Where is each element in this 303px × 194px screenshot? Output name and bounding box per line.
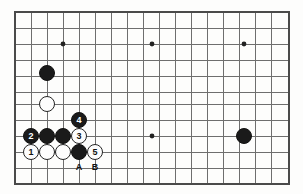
- black-stone-row-mid-2: [55, 128, 71, 144]
- black-stone-move-2: 2: [23, 128, 39, 144]
- white-stone-left: [39, 96, 55, 112]
- white-stone-move-3: 3: [71, 128, 87, 144]
- black-stone-upper-left: [39, 65, 55, 81]
- white-stone-bottom-2: [55, 144, 71, 160]
- point-label-a: A: [71, 163, 87, 172]
- stone-move-number: 4: [76, 115, 81, 124]
- stone-move-number: 1: [28, 147, 33, 156]
- white-stone-move-1: 1: [23, 144, 39, 160]
- star-lower-middle: [150, 134, 155, 139]
- black-stone-bottom: [71, 144, 87, 160]
- star-upper-right: [242, 42, 247, 47]
- stone-move-number: 3: [76, 131, 81, 140]
- black-stone-row-mid-1: [39, 128, 55, 144]
- black-stone-lower-right: [236, 128, 252, 144]
- board-outer-border: [15, 12, 289, 184]
- star-points: [61, 42, 247, 139]
- star-upper-middle: [150, 42, 155, 47]
- point-label-b: B: [87, 163, 103, 172]
- go-board-diagram: 42315 AB: [0, 0, 303, 194]
- white-stone-bottom-1: [39, 144, 55, 160]
- white-stone-move-5: 5: [87, 144, 103, 160]
- board-border: [15, 12, 289, 184]
- star-upper-left: [61, 42, 66, 47]
- stone-move-number: 2: [28, 131, 33, 140]
- black-stone-move-4: 4: [71, 112, 87, 128]
- stone-move-number: 5: [92, 147, 97, 156]
- grid-lines: [15, 12, 289, 184]
